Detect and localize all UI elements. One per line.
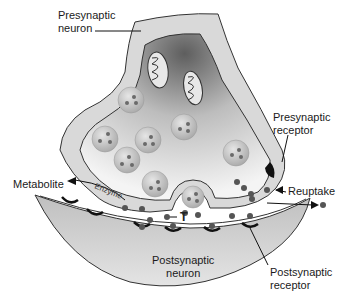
presynaptic-neuron bbox=[60, 14, 285, 212]
label-line: receptor bbox=[270, 279, 332, 292]
transmitter-label: T bbox=[180, 210, 188, 224]
presynaptic-receptor-label: Presynaptic receptor bbox=[273, 111, 330, 137]
postsynaptic-neuron-label: Postsynaptic neuron bbox=[152, 254, 214, 280]
metabolite-label: Metabolite bbox=[13, 178, 64, 191]
synapse-diagram: Enzyme T bbox=[0, 0, 343, 297]
reuptake-label: Reuptake bbox=[288, 185, 335, 198]
label-line: Presynaptic bbox=[58, 9, 115, 22]
label-line: neuron bbox=[152, 267, 214, 280]
presynaptic-neuron-label: Presynaptic neuron bbox=[58, 9, 115, 35]
label-line: Presynaptic bbox=[273, 111, 330, 124]
postsynaptic-receptor-label: Postsynaptic receptor bbox=[270, 266, 332, 292]
label-line: receptor bbox=[273, 124, 330, 137]
label-line: Postsynaptic bbox=[270, 266, 332, 279]
label-line: neuron bbox=[58, 22, 115, 35]
label-line: Postsynaptic bbox=[152, 254, 214, 267]
